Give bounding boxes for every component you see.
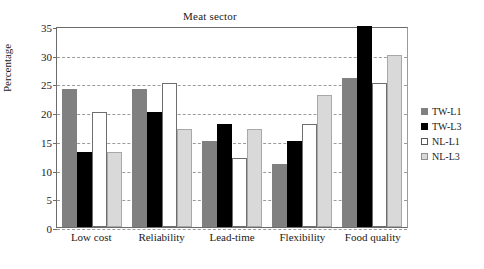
legend-swatch	[421, 138, 428, 145]
y-tick-label: 15	[41, 137, 52, 149]
legend-item: TW-L3	[421, 119, 461, 134]
bar	[342, 78, 357, 227]
x-axis-tick-label: Lead-time	[197, 231, 267, 243]
bar	[162, 83, 177, 227]
legend-item: NL-L3	[421, 149, 461, 164]
bar	[202, 141, 217, 227]
legend-swatch	[421, 153, 428, 160]
bar	[177, 129, 192, 227]
bar-group	[127, 28, 197, 227]
bar	[92, 112, 107, 227]
legend-label: NL-L1	[432, 136, 460, 147]
chart-container: Meat sector Percentage 05101520253035 Lo…	[0, 0, 484, 269]
bar-groups	[57, 28, 407, 227]
bar	[317, 95, 332, 227]
legend-item: TW-L1	[421, 104, 461, 119]
legend-item: NL-L1	[421, 134, 461, 149]
plot-area: 05101520253035	[56, 27, 408, 228]
bar	[302, 124, 317, 227]
bar	[357, 26, 372, 227]
x-axis-tick-label: Low cost	[56, 231, 126, 243]
bar	[77, 152, 92, 227]
legend-swatch	[421, 108, 428, 115]
bar	[372, 83, 387, 227]
bar	[232, 158, 247, 227]
gridline	[57, 229, 407, 230]
bar	[132, 89, 147, 227]
y-tick-label: 35	[41, 22, 52, 34]
bar	[387, 55, 402, 227]
y-tick-label: 20	[41, 108, 52, 120]
y-tick-label: 0	[47, 223, 53, 235]
y-tick-label: 5	[47, 194, 53, 206]
legend: TW-L1TW-L3NL-L1NL-L3	[421, 104, 461, 164]
y-tick-label: 30	[41, 51, 52, 63]
y-tick-label: 25	[41, 79, 52, 91]
bar	[217, 124, 232, 227]
bar	[107, 152, 122, 227]
y-tick-label: 10	[41, 166, 52, 178]
bar-group	[197, 28, 267, 227]
bar-group	[337, 28, 407, 227]
x-axis-labels: Low costReliabilityLead-timeFlexibilityF…	[56, 231, 408, 243]
bar-group	[57, 28, 127, 227]
chart-title: Meat sector	[0, 10, 420, 22]
y-axis-label: Percentage	[1, 44, 13, 92]
legend-label: NL-L3	[432, 151, 460, 162]
bar	[147, 112, 162, 227]
bar	[287, 141, 302, 227]
bar	[62, 89, 77, 227]
bar	[272, 164, 287, 227]
x-axis-tick-label: Food quality	[338, 231, 408, 243]
y-tick-mark	[53, 229, 57, 230]
bar-group	[267, 28, 337, 227]
legend-swatch	[421, 123, 428, 130]
legend-label: TW-L3	[432, 121, 461, 132]
x-axis-tick-label: Reliability	[126, 231, 196, 243]
bar	[247, 129, 262, 227]
legend-label: TW-L1	[432, 106, 461, 117]
x-axis-tick-label: Flexibility	[267, 231, 337, 243]
